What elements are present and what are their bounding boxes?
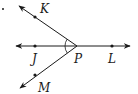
stray-dot [2, 8, 4, 10]
point-l [110, 44, 113, 47]
label-k: K [39, 2, 50, 16]
label-l: L [107, 52, 116, 66]
label-m: M [37, 81, 51, 94]
geometry-diagram: K J P L M [0, 0, 138, 94]
angle-arc-jpm [65, 46, 67, 53]
point-k [33, 15, 36, 18]
angle-arc-kpj [65, 39, 67, 46]
label-p: P [73, 52, 83, 66]
label-j: J [29, 52, 38, 66]
point-m [33, 73, 36, 76]
point-j [33, 44, 36, 47]
